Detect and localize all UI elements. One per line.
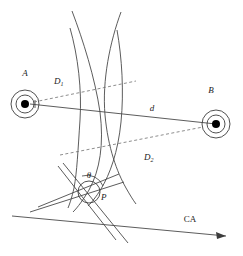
station-a-core bbox=[21, 100, 29, 108]
baseline-group bbox=[30, 100, 216, 124]
baseline-ab bbox=[30, 104, 216, 124]
isoline-curves bbox=[68, 28, 122, 208]
point-p-circle bbox=[78, 181, 100, 203]
label-distance-d2: D2 bbox=[143, 152, 154, 163]
range-lines bbox=[34, 81, 203, 155]
tangent-lines-through-p bbox=[30, 163, 128, 243]
station-b-marker bbox=[202, 110, 230, 138]
label-distance-d1: D1 bbox=[53, 76, 64, 87]
figure-canvas: A B D1 D2 d θ P CA bbox=[0, 0, 243, 256]
station-b-core bbox=[212, 120, 220, 128]
course-axis-arrowhead bbox=[216, 232, 226, 239]
label-distance-d1-sub: 1 bbox=[61, 81, 64, 87]
label-distance-d2-sub: 2 bbox=[151, 157, 154, 163]
point-p-marker bbox=[78, 181, 100, 203]
label-station-a: A bbox=[21, 68, 28, 78]
hyperbola-curves bbox=[72, 11, 136, 212]
label-baseline-d: d bbox=[150, 103, 155, 113]
hyperbolic-geometry-figure: A B D1 D2 d θ P CA bbox=[0, 0, 243, 256]
label-point-p: P bbox=[100, 192, 107, 202]
hyperbola-branch-right bbox=[104, 12, 136, 204]
range-line-d1 bbox=[34, 81, 136, 102]
label-theta: θ bbox=[87, 170, 92, 180]
label-station-b: B bbox=[208, 85, 214, 95]
label-course-axis: CA bbox=[184, 214, 197, 224]
range-line-d2 bbox=[60, 127, 203, 155]
